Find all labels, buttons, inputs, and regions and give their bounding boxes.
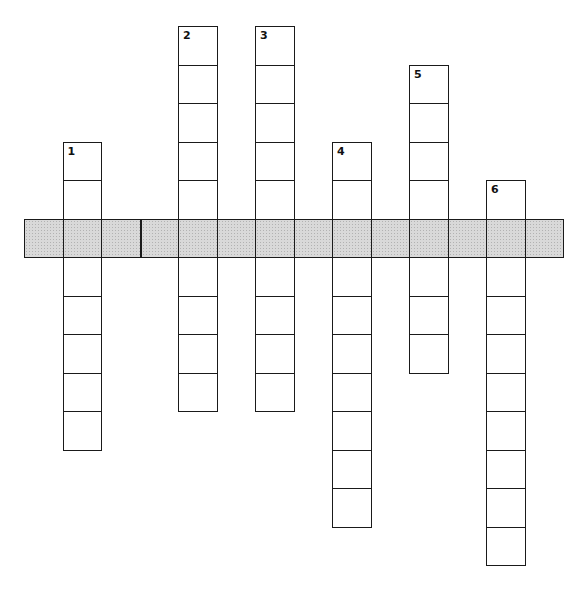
across-cell[interactable] — [332, 219, 372, 259]
down-3-cell[interactable] — [255, 180, 295, 220]
down-5-cell[interactable] — [409, 334, 449, 374]
down-4-cell[interactable] — [332, 411, 372, 451]
down-2-cell[interactable] — [178, 103, 218, 143]
down-2-cell[interactable] — [178, 296, 218, 336]
clue-number-6: 6 — [491, 184, 499, 195]
clue-number-3: 3 — [260, 30, 268, 41]
down-2-cell[interactable] — [178, 257, 218, 297]
down-4-cell[interactable] — [332, 257, 372, 297]
across-cell[interactable] — [140, 219, 180, 259]
down-1-cell[interactable] — [63, 373, 103, 413]
down-4-cell[interactable]: 4 — [332, 142, 372, 182]
down-6-cell[interactable] — [486, 527, 526, 567]
across-cell[interactable] — [178, 219, 218, 259]
across-cell[interactable] — [525, 219, 565, 259]
down-2-cell[interactable]: 2 — [178, 26, 218, 66]
down-3-cell[interactable] — [255, 373, 295, 413]
across-cell[interactable] — [63, 219, 103, 259]
down-6-cell[interactable] — [486, 373, 526, 413]
down-6-cell[interactable] — [486, 488, 526, 528]
across-cell[interactable] — [294, 219, 334, 259]
down-1-cell[interactable] — [63, 411, 103, 451]
crossword-grid: 123456 — [0, 0, 578, 597]
down-5-cell[interactable] — [409, 180, 449, 220]
down-2-cell[interactable] — [178, 334, 218, 374]
down-4-cell[interactable] — [332, 450, 372, 490]
down-6-cell[interactable]: 6 — [486, 180, 526, 220]
clue-number-1: 1 — [68, 146, 76, 157]
across-cell[interactable] — [448, 219, 488, 259]
across-cell[interactable] — [217, 219, 257, 259]
across-cell[interactable] — [101, 219, 141, 259]
down-2-cell[interactable] — [178, 142, 218, 182]
down-1-cell[interactable] — [63, 180, 103, 220]
down-5-cell[interactable] — [409, 296, 449, 336]
down-5-cell[interactable] — [409, 257, 449, 297]
down-3-cell[interactable] — [255, 65, 295, 105]
across-cell[interactable] — [409, 219, 449, 259]
down-2-cell[interactable] — [178, 180, 218, 220]
down-3-cell[interactable] — [255, 142, 295, 182]
clue-number-5: 5 — [414, 69, 422, 80]
down-2-cell[interactable] — [178, 373, 218, 413]
across-cell[interactable] — [371, 219, 411, 259]
down-3-cell[interactable] — [255, 334, 295, 374]
down-6-cell[interactable] — [486, 296, 526, 336]
clue-number-2: 2 — [183, 30, 191, 41]
down-5-cell[interactable]: 5 — [409, 65, 449, 105]
down-3-cell[interactable] — [255, 257, 295, 297]
down-5-cell[interactable] — [409, 103, 449, 143]
down-1-cell[interactable] — [63, 257, 103, 297]
down-4-cell[interactable] — [332, 296, 372, 336]
across-cell[interactable] — [486, 219, 526, 259]
across-cell[interactable] — [24, 219, 64, 259]
down-5-cell[interactable] — [409, 142, 449, 182]
across-cell[interactable] — [255, 219, 295, 259]
down-3-cell[interactable] — [255, 296, 295, 336]
down-4-cell[interactable] — [332, 334, 372, 374]
down-6-cell[interactable] — [486, 257, 526, 297]
down-3-cell[interactable]: 3 — [255, 26, 295, 66]
down-6-cell[interactable] — [486, 334, 526, 374]
down-4-cell[interactable] — [332, 180, 372, 220]
down-1-cell[interactable] — [63, 296, 103, 336]
down-3-cell[interactable] — [255, 103, 295, 143]
down-1-cell[interactable]: 1 — [63, 142, 103, 182]
down-6-cell[interactable] — [486, 450, 526, 490]
down-4-cell[interactable] — [332, 373, 372, 413]
down-6-cell[interactable] — [486, 411, 526, 451]
clue-number-4: 4 — [337, 146, 345, 157]
down-1-cell[interactable] — [63, 334, 103, 374]
down-4-cell[interactable] — [332, 488, 372, 528]
down-2-cell[interactable] — [178, 65, 218, 105]
